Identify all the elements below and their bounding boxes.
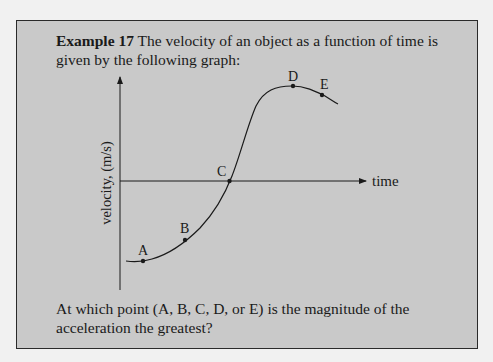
point-a-marker xyxy=(141,259,145,263)
x-axis-label: time xyxy=(372,173,399,189)
point-b-marker xyxy=(183,238,187,242)
point-b-label: B xyxy=(180,221,189,236)
point-d-label: D xyxy=(288,69,298,84)
point-c-marker xyxy=(227,179,231,183)
point-c-label: C xyxy=(217,164,226,179)
point-d-marker xyxy=(291,84,295,88)
point-e-marker xyxy=(320,93,324,97)
point-a-label: A xyxy=(138,243,149,258)
velocity-curve xyxy=(126,86,338,262)
y-axis-label: velocity, (m/s) xyxy=(98,141,115,225)
question-text: At which point (A, B, C, D, or E) is the… xyxy=(56,299,456,337)
point-e-label: E xyxy=(320,77,329,92)
